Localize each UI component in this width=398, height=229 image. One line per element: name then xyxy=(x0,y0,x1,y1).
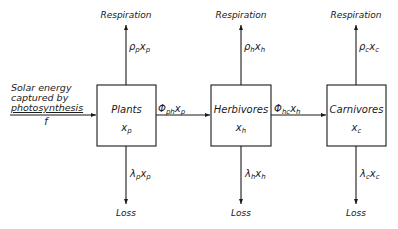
loss-rate-carnivores: λcxc xyxy=(360,169,380,180)
loss-label-carnivores: Loss xyxy=(346,208,366,218)
transfer-label-herbivores-carnivores: Φhcxh xyxy=(274,104,301,115)
plants-box xyxy=(97,85,156,146)
carnivores-title: Carnivores xyxy=(330,105,384,115)
solar-input-symbol: f xyxy=(44,117,48,127)
herbivores-title: Herbivores xyxy=(214,105,268,115)
loss-label-herbivores: Loss xyxy=(231,208,251,218)
plants-state: xp xyxy=(121,123,131,134)
transfer-label-plants-herbivores: Φphxp xyxy=(158,104,185,115)
carnivores-state: xc xyxy=(352,123,362,134)
respiration-rate-herbivores: ρhxh xyxy=(244,42,265,53)
respiration-label-herbivores: Respiration xyxy=(215,10,266,20)
respiration-rate-plants: ρpxp xyxy=(129,42,150,53)
carnivores-box xyxy=(327,85,386,146)
respiration-rate-carnivores: ρcxc xyxy=(359,42,379,53)
respiration-label-plants: Respiration xyxy=(100,10,151,20)
solar-input-label: Solar energy captured by photosynthesis xyxy=(11,83,83,113)
plants-title: Plants xyxy=(111,105,141,115)
loss-rate-plants: λpxp xyxy=(130,169,151,180)
loss-rate-herbivores: λhxh xyxy=(245,169,266,180)
loss-label-plants: Loss xyxy=(116,208,136,218)
herbivores-state: xh xyxy=(236,123,246,134)
herbivores-box xyxy=(211,85,271,146)
respiration-label-carnivores: Respiration xyxy=(330,10,381,20)
